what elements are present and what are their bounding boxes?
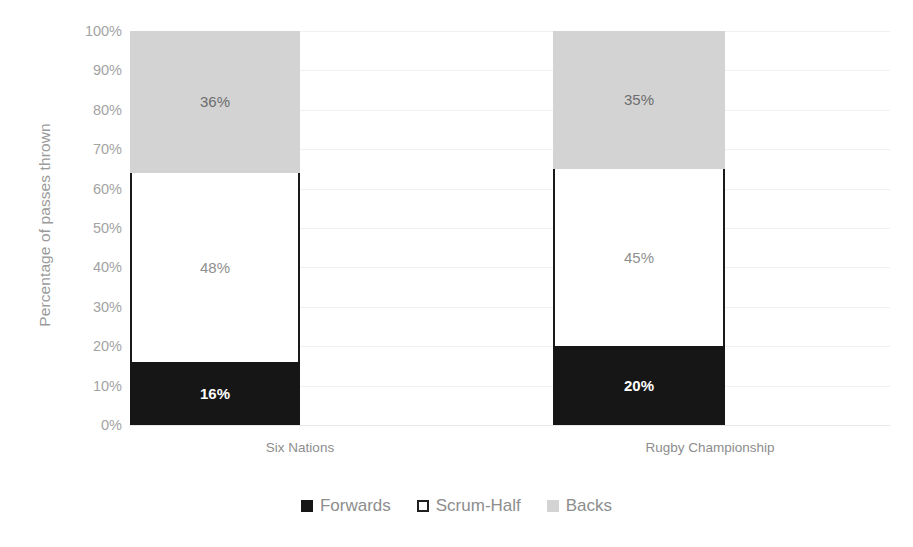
y-tick-10: 10%: [62, 378, 122, 394]
legend-swatch-icon-backs: [547, 500, 559, 512]
segment-label-forwards-six-nations: 16%: [200, 386, 230, 401]
segment-scrum-half-rugby-championship: 45%: [553, 169, 725, 346]
segment-label-backs-six-nations: 36%: [200, 94, 230, 109]
y-tick-50: 50%: [62, 220, 122, 236]
gridline-0: [130, 425, 890, 426]
chart-legend: Forwards Scrum-Half Backs: [0, 496, 913, 516]
segment-label-scrum-half-rugby-championship: 45%: [624, 250, 654, 265]
legend-item-scrum-half[interactable]: Scrum-Half: [417, 496, 521, 516]
y-tick-40: 40%: [62, 259, 122, 275]
segment-forwards-rugby-championship: 20%: [553, 346, 725, 425]
y-tick-0: 0%: [62, 417, 122, 433]
legend-label-forwards: Forwards: [320, 496, 391, 516]
bar-rugby-championship: 35% 45% 20%: [553, 31, 725, 425]
plot-area: 36% 48% 16% 35% 45% 20%: [130, 31, 890, 425]
legend-swatch-icon-scrum-half: [417, 500, 429, 512]
segment-forwards-six-nations: 16%: [130, 362, 300, 425]
y-tick-20: 20%: [62, 338, 122, 354]
segment-label-backs-rugby-championship: 35%: [624, 92, 654, 107]
bar-six-nations: 36% 48% 16%: [130, 31, 300, 425]
x-axis-category-labels: Six Nations Rugby Championship: [130, 440, 890, 464]
y-tick-30: 30%: [62, 299, 122, 315]
y-axis-title: Percentage of passes thrown: [36, 60, 54, 390]
segment-label-scrum-half-six-nations: 48%: [200, 260, 230, 275]
y-tick-70: 70%: [62, 141, 122, 157]
legend-item-backs[interactable]: Backs: [547, 496, 612, 516]
x-label-rugby-championship: Rugby Championship: [530, 440, 890, 455]
stacked-bar-chart: Percentage of passes thrown 36% 48% 16%: [0, 0, 913, 547]
segment-label-forwards-rugby-championship: 20%: [624, 378, 654, 393]
legend-item-forwards[interactable]: Forwards: [301, 496, 391, 516]
segment-scrum-half-six-nations: 48%: [130, 173, 300, 362]
y-tick-80: 80%: [62, 102, 122, 118]
y-tick-60: 60%: [62, 181, 122, 197]
y-axis-tick-labels: 100% 90% 80% 70% 60% 50% 40% 30% 20% 10%…: [58, 31, 122, 425]
y-tick-90: 90%: [62, 62, 122, 78]
legend-swatch-icon-forwards: [301, 500, 313, 512]
segment-backs-six-nations: 36%: [130, 31, 300, 173]
segment-backs-rugby-championship: 35%: [553, 31, 725, 169]
legend-label-backs: Backs: [566, 496, 612, 516]
legend-label-scrum-half: Scrum-Half: [436, 496, 521, 516]
x-label-six-nations: Six Nations: [130, 440, 470, 455]
y-tick-100: 100%: [62, 23, 122, 39]
